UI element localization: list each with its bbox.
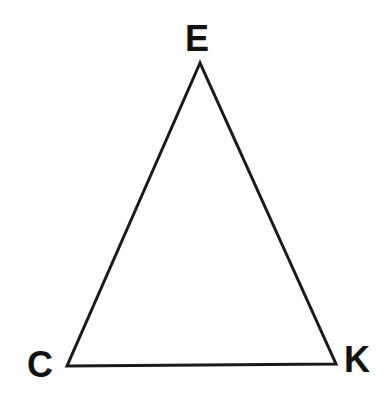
triangle-ECK	[67, 63, 336, 366]
triangle-diagram: E C K	[0, 0, 392, 394]
vertex-label-e: E	[185, 18, 209, 59]
vertex-label-k: K	[344, 339, 370, 380]
vertex-label-c: C	[27, 344, 53, 385]
